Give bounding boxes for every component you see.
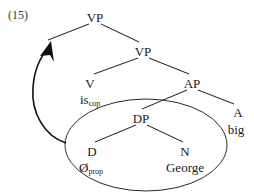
terminal-big-base: big: [228, 122, 245, 137]
syntax-tree-canvas: VP VP V AP DP A D N iscop big Øprop Geor…: [0, 0, 254, 194]
terminal-george: George: [166, 160, 204, 175]
terminal-null-prop-subscript: prop: [88, 167, 103, 176]
node-d: D: [87, 144, 96, 159]
node-a: A: [233, 105, 243, 120]
branch-vplower-left: [94, 58, 138, 74]
terminal-big: big: [228, 122, 245, 137]
terminal-is-cop-base: is: [80, 92, 89, 107]
branch-dp-left: [95, 125, 136, 142]
terminal-george-base: George: [166, 160, 204, 175]
node-n: N: [180, 144, 190, 159]
node-vp-top: VP: [87, 10, 104, 25]
node-dp: DP: [133, 111, 150, 126]
dp-movement-arrow: [33, 41, 66, 143]
movement-arrow-head: [40, 41, 54, 62]
terminal-is-cop: iscop: [80, 92, 100, 108]
node-vp-lower: VP: [135, 44, 152, 59]
node-v: V: [85, 76, 95, 91]
movement-arc-path: [33, 47, 66, 143]
example-number: (15): [8, 8, 28, 22]
terminal-null-prop-base: Ø: [79, 160, 88, 175]
syntax-tree-figure: VP VP V AP DP A D N iscop big Øprop Geor…: [0, 0, 254, 194]
terminal-is-cop-subscript: cop: [89, 99, 101, 108]
branch-vplower-right: [149, 58, 189, 74]
node-ap: AP: [184, 76, 201, 91]
terminal-null-prop: Øprop: [79, 160, 103, 176]
branch-ap-right: [198, 90, 234, 104]
branch-dp-right: [147, 125, 183, 142]
branch-vptop-left: [48, 24, 89, 40]
branch-vptop-right: [101, 24, 139, 42]
